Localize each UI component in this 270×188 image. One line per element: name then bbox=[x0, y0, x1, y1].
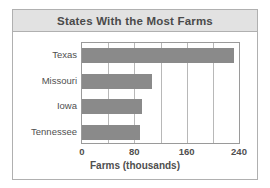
category-label: Texas bbox=[13, 49, 77, 60]
bar bbox=[82, 74, 152, 89]
x-tick-label: 80 bbox=[129, 146, 140, 157]
x-tick-label: 240 bbox=[231, 146, 247, 157]
plot-area bbox=[81, 42, 240, 144]
page-title: States With the Most Farms bbox=[57, 15, 213, 27]
chart-title-band: States With the Most Farms bbox=[13, 10, 257, 32]
bar bbox=[82, 48, 234, 63]
bar bbox=[82, 99, 142, 114]
chart-figure: States With the Most Farms TexasMissouri… bbox=[12, 9, 258, 180]
category-axis-labels: TexasMissouriIowaTennessee bbox=[13, 42, 77, 144]
category-label: Iowa bbox=[13, 100, 77, 111]
category-label: Missouri bbox=[13, 75, 77, 86]
x-tick-label: 160 bbox=[179, 146, 195, 157]
x-axis-title: Farms (thousands) bbox=[13, 160, 257, 171]
x-tick-label: 0 bbox=[79, 146, 84, 157]
bar bbox=[82, 125, 140, 140]
category-label: Tennessee bbox=[13, 126, 77, 137]
bar-series bbox=[82, 43, 239, 143]
x-axis-tick-labels: 080160240 bbox=[13, 146, 257, 160]
